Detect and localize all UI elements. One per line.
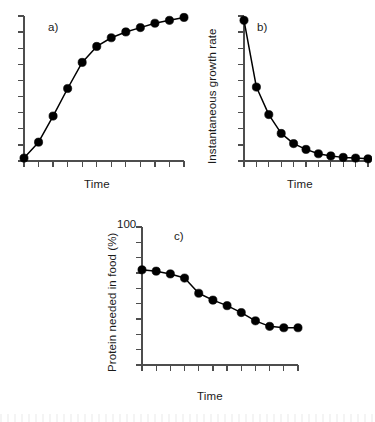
data-point bbox=[152, 267, 160, 275]
data-point bbox=[266, 322, 274, 330]
data-point bbox=[136, 24, 144, 32]
data-point bbox=[265, 111, 273, 119]
data-point bbox=[151, 19, 159, 27]
data-point bbox=[93, 42, 101, 50]
figure-panel-group: a) Time Instantaneous growth rate b) Tim… bbox=[0, 0, 375, 422]
data-point bbox=[252, 83, 260, 91]
data-point bbox=[209, 296, 217, 304]
panel-b-xaxis-title: Time bbox=[287, 178, 313, 190]
axes bbox=[18, 16, 184, 167]
panel-a: a) Time bbox=[10, 6, 190, 186]
panel-c-letter: c) bbox=[174, 230, 184, 242]
data-point bbox=[34, 138, 42, 146]
panel-a-letter: a) bbox=[48, 21, 58, 33]
panel-b: Instantaneous growth rate b) Time bbox=[192, 6, 372, 186]
data-point bbox=[240, 16, 248, 24]
panel-c-plot bbox=[92, 218, 322, 383]
data-point bbox=[49, 112, 57, 120]
panel-b-yaxis-title: Instantaneous growth rate bbox=[206, 29, 218, 164]
data-point bbox=[294, 324, 302, 332]
data-point bbox=[339, 153, 347, 161]
data-point bbox=[364, 155, 372, 163]
data-line bbox=[244, 20, 368, 158]
data-line bbox=[142, 270, 298, 328]
data-point bbox=[314, 150, 322, 158]
data-point bbox=[138, 266, 146, 274]
data-point bbox=[180, 13, 188, 21]
panel-c-ytick-label-100: 100 bbox=[117, 218, 136, 230]
panel-c: Protein needed in food (%) 100 c) Time bbox=[92, 218, 322, 418]
data-point bbox=[166, 270, 174, 278]
data-point bbox=[107, 34, 115, 42]
panel-c-yaxis-title: Protein needed in food (%) bbox=[106, 233, 118, 372]
data-point bbox=[237, 308, 245, 316]
scan-artifact bbox=[0, 414, 375, 422]
panel-c-xaxis-title: Time bbox=[197, 390, 223, 402]
data-point bbox=[352, 154, 360, 162]
data-point bbox=[251, 317, 259, 325]
panel-b-plot bbox=[192, 6, 372, 178]
data-point bbox=[223, 302, 231, 310]
data-point bbox=[64, 84, 72, 92]
panel-a-xaxis-title: Time bbox=[84, 178, 110, 190]
data-point bbox=[290, 140, 298, 148]
data-point bbox=[165, 16, 173, 24]
data-point bbox=[302, 145, 310, 153]
data-point bbox=[122, 28, 130, 36]
axes bbox=[238, 16, 368, 167]
data-point bbox=[78, 58, 86, 66]
data-point bbox=[180, 274, 188, 282]
panel-b-letter: b) bbox=[257, 21, 267, 33]
data-line bbox=[24, 17, 184, 158]
data-point bbox=[280, 324, 288, 332]
data-point bbox=[277, 129, 285, 137]
data-point bbox=[20, 154, 28, 162]
data-point bbox=[195, 289, 203, 297]
panel-a-plot bbox=[10, 6, 190, 178]
data-point bbox=[327, 152, 335, 160]
